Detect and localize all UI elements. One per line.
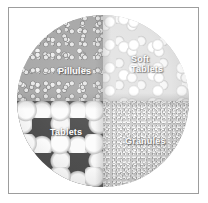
circular-product-photo bbox=[17, 15, 189, 187]
region-granules bbox=[103, 101, 189, 187]
region-pellets bbox=[17, 15, 103, 101]
region-soft-tablets bbox=[103, 15, 189, 101]
region-tablets bbox=[17, 101, 103, 187]
photo-stage: Pillules Soft Tablets Tablets Granules bbox=[9, 8, 199, 194]
figure-frame: Pillules Soft Tablets Tablets Granules bbox=[0, 0, 208, 203]
